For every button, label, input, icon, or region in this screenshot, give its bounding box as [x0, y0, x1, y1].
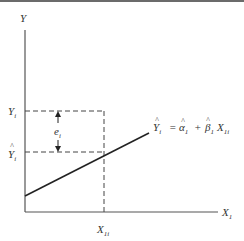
- residual-label: ei: [54, 125, 61, 140]
- equation-beta: β1: [204, 121, 214, 136]
- y-observed-label: Yi: [8, 105, 16, 120]
- equation-lhs: Yi: [153, 121, 161, 136]
- x-axis-label: X1: [221, 206, 232, 221]
- y-axis-label: Y: [20, 12, 28, 24]
- regression-diagram: Y X1 Yi ^ Yi ei X1i ^ Yi = ^ α1 + ^ β1 X…: [0, 0, 244, 241]
- x-value-label: X1i: [96, 223, 109, 238]
- equation-equals: =: [169, 121, 176, 133]
- equation-plus: +: [194, 121, 201, 133]
- equation-alpha: α1: [179, 121, 188, 136]
- equation-x: X1i: [216, 121, 229, 136]
- regression-line: [25, 133, 149, 196]
- y-fitted-label: Yi: [8, 148, 16, 163]
- regression-equation: ^ Yi = ^ α1 + ^ β1 X1i: [153, 116, 229, 136]
